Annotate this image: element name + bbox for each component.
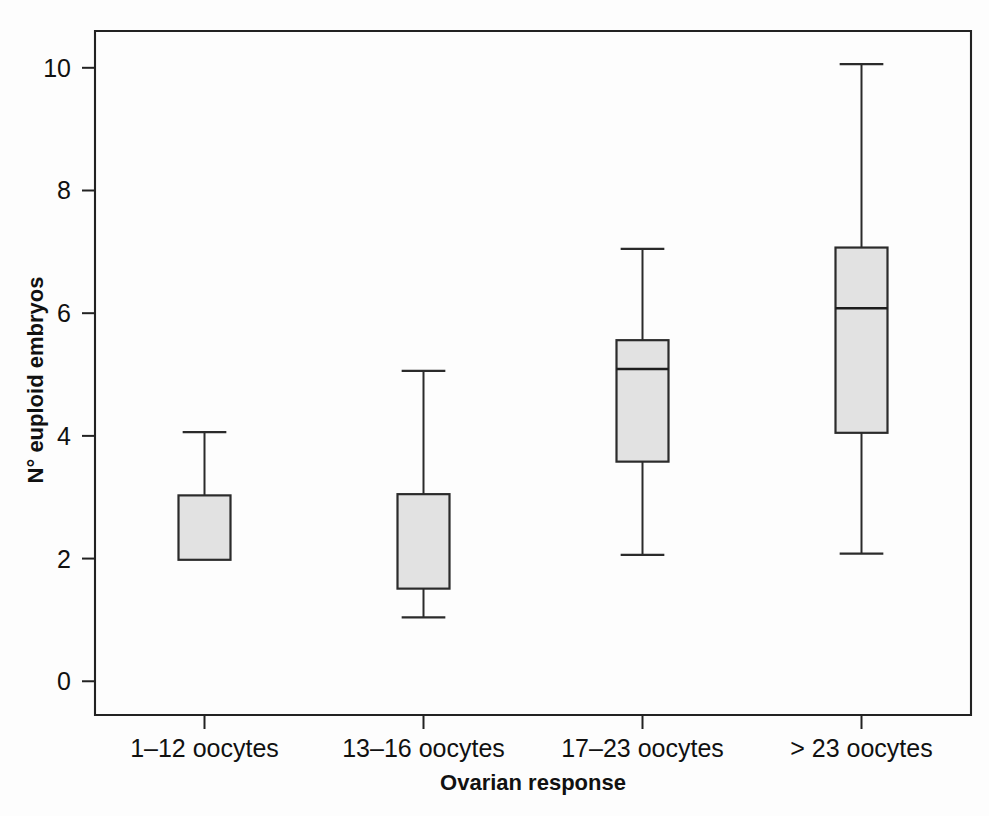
y-axis-ticks xyxy=(82,68,95,681)
box-iqr xyxy=(179,495,231,559)
box-plot-item xyxy=(617,249,669,555)
box-plot-item xyxy=(179,432,231,560)
box-iqr xyxy=(836,248,888,433)
x-axis-tick-labels: 1–12 oocytes13–16 oocytes17–23 oocytes> … xyxy=(130,734,933,762)
y-axis-tick-label: 8 xyxy=(57,176,71,204)
box-plot-item xyxy=(836,64,888,554)
box-iqr xyxy=(617,340,669,461)
y-axis-tick-label: 4 xyxy=(57,422,71,450)
box-plot-item xyxy=(398,371,450,618)
figure-container: 0246810 1–12 oocytes13–16 oocytes17–23 o… xyxy=(0,0,989,816)
box-iqr xyxy=(398,494,450,588)
x-axis-title: Ovarian response xyxy=(440,770,626,795)
y-axis-tick-label: 6 xyxy=(57,299,71,327)
y-axis-tick-label: 10 xyxy=(43,54,71,82)
x-axis-tick-label: 13–16 oocytes xyxy=(342,734,505,762)
x-axis-tick-label: 17–23 oocytes xyxy=(561,734,724,762)
box-plot-chart: 0246810 1–12 oocytes13–16 oocytes17–23 o… xyxy=(0,0,989,816)
y-axis-title: N° euploid embryos xyxy=(23,277,48,484)
y-axis-tick-label: 0 xyxy=(57,667,71,695)
x-axis-ticks xyxy=(205,715,862,729)
box-plot-series xyxy=(179,64,888,617)
x-axis-tick-label: 1–12 oocytes xyxy=(130,734,279,762)
x-axis-tick-label: > 23 oocytes xyxy=(790,734,932,762)
y-axis-tick-label: 2 xyxy=(57,545,71,573)
